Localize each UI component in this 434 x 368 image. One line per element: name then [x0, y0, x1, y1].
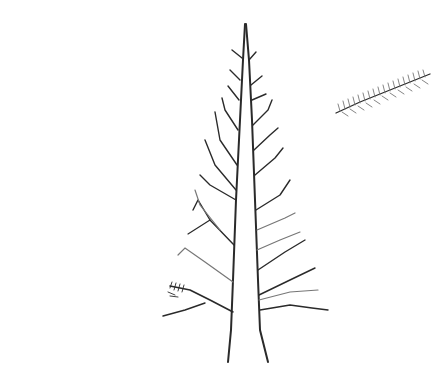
left-branches	[163, 50, 242, 316]
tree-sketch	[0, 0, 434, 368]
right-branches	[249, 52, 328, 310]
sketch-canvas	[0, 0, 434, 368]
pine-sprig	[336, 70, 430, 116]
needle-tuft	[168, 282, 184, 297]
